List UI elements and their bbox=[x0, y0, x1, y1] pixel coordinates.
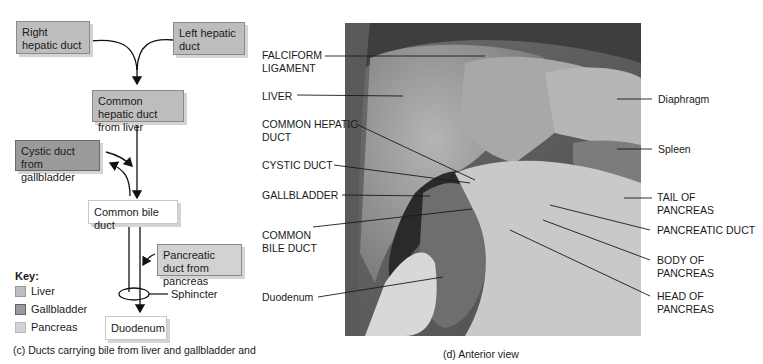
leader-lines bbox=[0, 0, 763, 364]
label-diaphragm: Diaphragm bbox=[658, 93, 709, 106]
label-cystic-duct: CYSTIC DUCT bbox=[262, 159, 333, 172]
label-body-of-pancreas: BODY OF PANCREAS bbox=[657, 254, 714, 279]
label-common-bile-duct: COMMON BILE DUCT bbox=[262, 229, 317, 254]
label-common-hepatic-duct: COMMON HEPATIC DUCT bbox=[262, 118, 358, 143]
caption-d: (d) Anterior view bbox=[443, 348, 519, 360]
label-head-of-pancreas: HEAD OF PANCREAS bbox=[657, 290, 714, 315]
label-pancreatic-duct: PANCREATIC DUCT bbox=[657, 224, 755, 237]
label-duodenum: Duodenum bbox=[262, 291, 313, 304]
label-gallbladder: GALLBLADDER bbox=[262, 189, 338, 202]
label-spleen: Spleen bbox=[658, 143, 691, 156]
label-liver: LIVER bbox=[262, 90, 292, 103]
label-tail-of-pancreas: TAIL OF PANCREAS bbox=[657, 191, 714, 216]
label-falciform-ligament: FALCIFORM LIGAMENT bbox=[262, 49, 322, 74]
